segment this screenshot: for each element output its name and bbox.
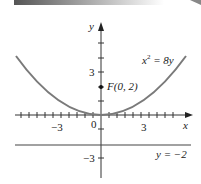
tick-label-0: 0 (91, 118, 97, 130)
tick-label-3-y: 3 (89, 66, 95, 78)
y-axis-label: y (88, 20, 94, 32)
focus-label: F(0, 2) (106, 80, 138, 93)
directrix-label: y = −2 (155, 148, 187, 160)
x-axis-arrow-icon (185, 112, 193, 118)
parabola-chart: y x x2 = 8y F(0, 2) y = −2 −3 0 3 3 −3 (0, 0, 201, 184)
x-axis-label: x (182, 119, 188, 131)
focus-point (99, 85, 103, 89)
tick-label-neg3-x: −3 (51, 121, 63, 133)
curve-label-rest: = 8y (150, 54, 173, 66)
y-axis-arrow-icon (98, 22, 104, 31)
curve-label: x2 = 8y (141, 53, 174, 66)
tick-label-3-x: 3 (141, 121, 147, 133)
tick-label-neg3-y: −3 (83, 152, 95, 164)
